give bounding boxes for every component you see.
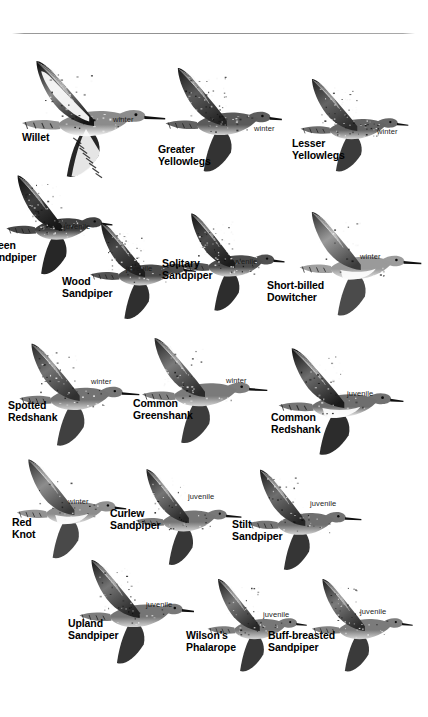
species-name-common-redshank: Common Redshank: [271, 412, 320, 435]
plumage-label-willet: winter: [113, 116, 134, 124]
species-name-buff-breasted-sandpiper: Buff-breasted Sandpiper: [268, 630, 335, 653]
species-name-willet: Willet: [22, 132, 49, 144]
header-rule: [12, 33, 415, 34]
plumage-label-common-redshank: juvenile: [347, 390, 373, 398]
species-name-wilsons-phalarope: Wilson's Phalarope: [186, 630, 236, 653]
plumage-label-greater-yellowlegs: winter: [254, 125, 275, 133]
species-name-upland-sandpiper: Upland Sandpiper: [68, 618, 118, 641]
plumage-label-solitary-sandpiper: juvenile: [231, 258, 257, 266]
species-name-spotted-redshank: Spotted Redshank: [8, 400, 57, 423]
plumage-label-spotted-redshank: winter: [91, 378, 112, 386]
species-name-lesser-yellowlegs: Lesser Yellowlegs: [292, 138, 345, 161]
plumage-label-red-knot: winter: [68, 498, 89, 506]
plumage-label-stilt-sandpiper: juvenile: [310, 500, 336, 508]
plumage-label-wood-sandpiper: juvenile: [126, 265, 152, 273]
field-guide-plate: WilletwinterGreater YellowlegswinterLess…: [0, 0, 428, 717]
plumage-label-upland-sandpiper: juvenile: [146, 601, 172, 609]
plumage-label-wilsons-phalarope: juvenile: [263, 611, 289, 619]
bird-illustration-common-redshank: [264, 340, 410, 476]
plumage-label-short-billed-dowitcher: winter: [360, 253, 381, 261]
species-name-red-knot: Red Knot: [12, 517, 36, 540]
plumage-label-green-sandpiper: juvenile: [64, 223, 90, 231]
plumage-label-curlew-sandpiper: juvenile: [188, 493, 214, 501]
species-name-stilt-sandpiper: Stilt Sandpiper: [232, 519, 282, 542]
plumage-label-common-greenshank: winter: [226, 377, 247, 385]
bird-illustration-short-billed-dowitcher: [286, 204, 422, 336]
species-name-wood-sandpiper: Wood Sandpiper: [62, 276, 112, 299]
species-name-green-sandpiper: Green Sandpiper: [0, 240, 36, 263]
plumage-label-buff-breasted-sandpiper: juvenile: [360, 608, 386, 616]
species-name-solitary-sandpiper: Solitary Sandpiper: [162, 258, 212, 281]
species-name-greater-yellowlegs: Greater Yellowlegs: [158, 144, 211, 167]
species-name-curlew-sandpiper: Curlew Sandpiper: [110, 508, 160, 531]
plumage-label-lesser-yellowlegs: winter: [377, 128, 398, 136]
species-name-common-greenshank: Common Greenshank: [133, 398, 193, 421]
species-name-short-billed-dowitcher: Short-billed Dowitcher: [267, 280, 324, 303]
